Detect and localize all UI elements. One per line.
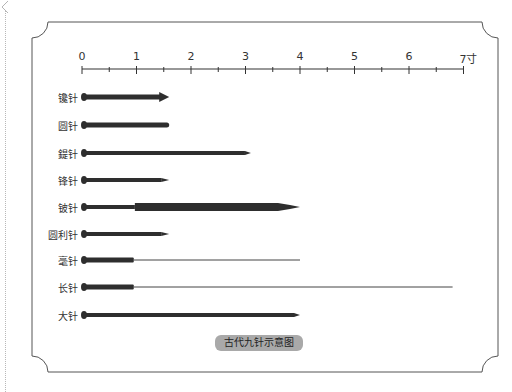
ruler-tick-label: 0: [79, 50, 86, 63]
needle-label: 圆利针: [48, 227, 78, 242]
needle-0: [81, 92, 169, 102]
needle-6: [81, 256, 300, 264]
needle-8: [81, 311, 300, 319]
diagram-caption: 古代九针示意图: [215, 335, 303, 351]
needle-1: [81, 121, 169, 129]
ruler-tick-label: 7寸: [460, 50, 478, 66]
ruler-tick-label: 4: [297, 50, 304, 63]
ruler-tick-label: 6: [406, 50, 413, 63]
ruler-tick-label: 3: [242, 50, 249, 63]
needle-label: 长针: [58, 280, 78, 295]
ruler-tick-label: 5: [351, 50, 358, 63]
needle-2: [81, 149, 251, 157]
needle-label: 铍针: [58, 200, 78, 215]
ruler-tick-label: 1: [133, 50, 140, 63]
diagram-frame: [0, 0, 512, 392]
needle-label: 锋针: [58, 173, 78, 188]
needle-label: 毫针: [58, 253, 78, 268]
ruler-tick-label: 2: [188, 50, 195, 63]
needle-label: 大针: [58, 308, 78, 323]
needle-5: [81, 230, 169, 238]
needle-label: 圆针: [58, 118, 78, 133]
needle-3: [81, 176, 169, 184]
needle-label: 镵针: [58, 90, 78, 105]
needle-label: 鍉针: [58, 146, 78, 161]
needle-7: [81, 283, 453, 291]
needle-4: [81, 203, 300, 211]
